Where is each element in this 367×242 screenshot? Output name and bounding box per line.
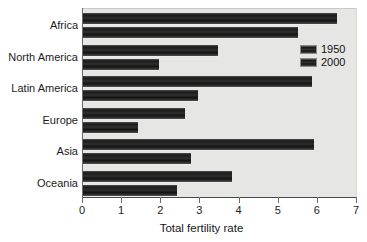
- bar-asia-2000: [83, 153, 191, 164]
- x-axis-title-text: Total fertility rate: [160, 222, 244, 234]
- x-tick-0: [82, 197, 83, 203]
- bar-europe-1950: [83, 108, 185, 119]
- y-axis-label-africa: Africa: [0, 20, 78, 31]
- bar-oceania-1950: [83, 171, 232, 182]
- plot-top-border: [83, 8, 357, 9]
- bar-oceania-2000: [83, 185, 177, 196]
- y-axis-label-europe: Europe: [0, 115, 78, 126]
- x-tick-label-0: 0: [67, 204, 97, 217]
- bar-group: [83, 171, 357, 196]
- legend-label-2000: 2000: [321, 57, 345, 68]
- bar-north-america-2000: [83, 59, 159, 70]
- bar-africa-1950: [83, 13, 337, 24]
- bar-group: [83, 108, 357, 133]
- bar-europe-2000: [83, 122, 138, 133]
- bar-group: [83, 76, 357, 101]
- x-tick-5: [278, 197, 279, 203]
- x-tick-label-5: 5: [263, 204, 293, 217]
- x-tick-label-6: 6: [302, 204, 332, 217]
- legend: 1950 2000: [297, 42, 348, 70]
- x-tick-7: [356, 197, 357, 203]
- bar-group: [83, 139, 357, 164]
- bar-north-america-1950: [83, 45, 218, 56]
- legend-item-1950: 1950: [300, 44, 345, 55]
- x-tick-4: [239, 197, 240, 203]
- x-tick-2: [160, 197, 161, 203]
- legend-item-2000: 2000: [300, 57, 345, 68]
- legend-label-1950: 1950: [321, 44, 345, 55]
- bar-latin-america-2000: [83, 90, 198, 101]
- y-axis-label-latin-america: Latin America: [0, 83, 78, 94]
- x-tick-label-4: 4: [224, 204, 254, 217]
- x-tick-3: [199, 197, 200, 203]
- bar-asia-1950: [83, 139, 314, 150]
- x-tick-label-3: 3: [184, 204, 214, 217]
- x-tick-label-1: 1: [106, 204, 136, 217]
- y-axis-label-north-america: North America: [0, 52, 78, 63]
- bar-africa-2000: [83, 27, 298, 38]
- fertility-rate-bar-chart: 1950 2000 AfricaNorth AmericaLatin Ameri…: [0, 0, 367, 242]
- legend-swatch-2000: [300, 58, 317, 67]
- bar-group: [83, 13, 357, 38]
- x-tick-label-7: 7: [341, 204, 367, 217]
- plot-area: 1950 2000: [82, 8, 357, 198]
- x-tick-label-2: 2: [145, 204, 175, 217]
- bar-latin-america-1950: [83, 76, 312, 87]
- legend-swatch-1950: [300, 45, 317, 54]
- y-axis-label-oceania: Oceania: [0, 178, 78, 189]
- y-axis-label-asia: Asia: [0, 146, 78, 157]
- x-tick-1: [121, 197, 122, 203]
- x-axis-title: Total fertility rate: [0, 222, 367, 234]
- x-tick-6: [317, 197, 318, 203]
